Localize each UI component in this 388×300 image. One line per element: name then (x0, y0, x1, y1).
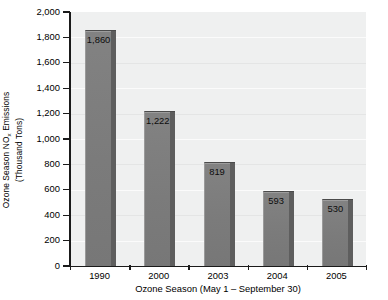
y-axis-title-part2: Emissions (1, 92, 11, 134)
bar-side-shadow (348, 200, 353, 266)
x-axis-tick-label: 2005 (306, 270, 366, 281)
y-axis-tick (63, 164, 70, 165)
y-axis-tick (63, 88, 70, 89)
bar-top-bevel (145, 112, 170, 113)
y-axis-tick (63, 138, 70, 139)
bar-side-shadow (230, 163, 235, 266)
y-axis-tick (63, 240, 70, 241)
bar-value-label: 593 (264, 195, 289, 206)
y-axis-tick-label: 400 (14, 209, 60, 220)
x-axis-line (69, 266, 366, 268)
y-axis-tick-label: 600 (14, 183, 60, 194)
bar: 1,222 (144, 111, 175, 266)
plot-area: 1,8601,222819593530 (70, 12, 366, 266)
bar-top-bevel (323, 200, 348, 201)
x-axis-tick-label: 2004 (247, 270, 307, 281)
x-axis-tick-label: 1990 (70, 270, 130, 281)
bar-value-label: 1,222 (145, 115, 170, 126)
bar-top-bevel (264, 192, 289, 193)
y-axis-tick (63, 113, 70, 114)
bar-value-label: 1,860 (86, 34, 111, 45)
y-axis-tick-label: 1,000 (14, 133, 60, 144)
y-axis-tick-label: 1,800 (14, 31, 60, 42)
bar: 1,860 (85, 30, 116, 266)
x-axis-title: Ozone Season (May 1 – September 30) (70, 283, 366, 294)
bar: 530 (322, 199, 353, 266)
y-axis-tick-label: 1,200 (14, 107, 60, 118)
bar-top-bevel (205, 163, 230, 164)
x-axis-tick-label: 2000 (129, 270, 189, 281)
y-axis-tick-label: 200 (14, 234, 60, 245)
y-axis-tick-label: 0 (14, 260, 60, 271)
x-axis-tick-label: 2003 (188, 270, 248, 281)
y-axis-title: Ozone Season NOx Emissions (Thousand Ton… (0, 0, 26, 300)
bar-top-bevel (86, 31, 111, 32)
bar: 819 (204, 162, 235, 266)
y-axis-tick (63, 37, 70, 38)
bar-value-label: 530 (323, 203, 348, 214)
y-axis-title-subscript: x (5, 133, 12, 136)
y-axis-tick (63, 189, 70, 190)
y-axis-tick (63, 62, 70, 63)
y-axis-title-part1: Ozone Season NO (1, 136, 11, 208)
y-axis-tick (63, 215, 70, 216)
y-axis-tick-label: 1,600 (14, 56, 60, 67)
bar-value-label: 819 (205, 166, 230, 177)
bar-side-shadow (289, 192, 294, 266)
x-axis-tick (70, 265, 71, 270)
bar-side-shadow (111, 31, 116, 266)
y-axis-tick (63, 265, 70, 266)
bar: 593 (263, 191, 294, 266)
bar-side-shadow (170, 112, 175, 266)
bar-chart: Ozone Season NOx Emissions (Thousand Ton… (0, 0, 388, 300)
y-axis-tick-label: 800 (14, 158, 60, 169)
y-axis-tick (63, 11, 70, 12)
y-axis-tick-label: 2,000 (14, 6, 60, 17)
y-axis-tick-label: 1,400 (14, 82, 60, 93)
